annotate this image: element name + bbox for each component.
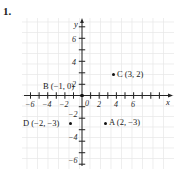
x-axis-label: x	[166, 98, 170, 107]
x-tick-label-2: 2	[97, 101, 101, 109]
point-label-C: C (3, 2)	[117, 70, 143, 79]
y-axis-label: y	[74, 20, 78, 29]
exercise-figure: 1.	[0, 0, 176, 174]
y-tick-label-6: 6	[72, 36, 76, 44]
x-tick-label-minus6: −6	[25, 101, 34, 109]
y-tick-label-4: 4	[72, 59, 76, 67]
point-dot-D	[69, 122, 72, 125]
y-tick-label-minus2: −2	[68, 111, 77, 119]
origin-label: 0	[85, 100, 89, 108]
x-tick-label-minus2: −2	[59, 101, 68, 109]
problem-number: 1.	[3, 6, 11, 17]
x-tick-label-minus4: −4	[42, 101, 51, 109]
point-label-B: B (−1, 0)	[43, 82, 74, 91]
coordinate-plane: −6 −4 −2 2 4 6 0 6 4 2 −2 −4 −6 x y C (3…	[22, 18, 174, 169]
y-tick-label-minus4: −4	[68, 134, 77, 142]
point-label-A: A (2, −3)	[109, 118, 140, 127]
x-tick-label-6: 6	[131, 101, 135, 109]
y-tick-label-minus6: −6	[68, 157, 77, 165]
axes	[22, 18, 174, 169]
x-tick-label-4: 4	[114, 101, 118, 109]
point-label-D: D (−2, −3)	[23, 119, 59, 128]
point-dot-B	[80, 94, 83, 97]
